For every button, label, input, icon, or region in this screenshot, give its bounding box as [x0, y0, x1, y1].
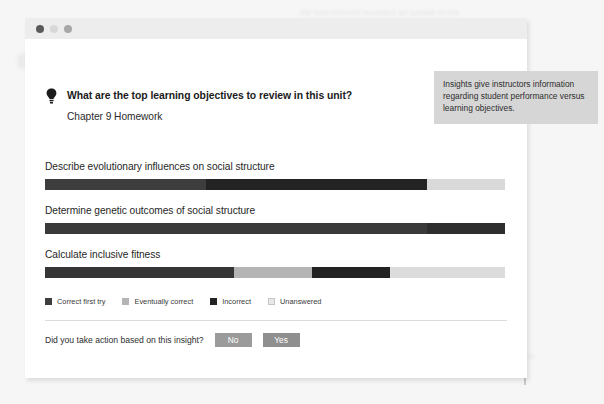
- chart-legend: Correct first try Eventually correct Inc…: [45, 297, 321, 306]
- legend-swatch-icon: [268, 298, 275, 305]
- maximize-dot-icon[interactable]: [64, 25, 72, 33]
- legend-item-correct-first-try[interactable]: Correct first try: [45, 297, 105, 306]
- objective-label: Describe evolutionary influences on soci…: [45, 161, 505, 172]
- objective-row: Determine genetic outcomes of social str…: [45, 205, 505, 234]
- close-dot-icon[interactable]: [36, 25, 44, 33]
- bar-segment-incorrect[interactable]: [427, 223, 505, 234]
- insight-question-title: What are the top learning objectives to …: [67, 89, 352, 102]
- window-title-bar: [25, 18, 527, 39]
- legend-label: Eventually correct: [134, 297, 193, 306]
- insight-feedback-footer: Did you take action based on this insigh…: [45, 333, 300, 347]
- legend-label: Unanswered: [280, 297, 322, 306]
- legend-item-eventually-correct[interactable]: Eventually correct: [122, 297, 193, 306]
- bar-segment-incorrect[interactable]: [206, 179, 427, 190]
- bar-segment-unanswered[interactable]: [427, 179, 505, 190]
- footer-divider: [45, 320, 507, 321]
- minimize-dot-icon[interactable]: [50, 25, 58, 33]
- objective-label: Determine genetic outcomes of social str…: [45, 205, 505, 216]
- stacked-bar-track[interactable]: [45, 179, 505, 190]
- legend-label: Correct first try: [57, 297, 105, 306]
- legend-item-incorrect[interactable]: Incorrect: [210, 297, 251, 306]
- bar-segment-correct-first-try[interactable]: [45, 223, 427, 234]
- feedback-question: Did you take action based on this insigh…: [45, 335, 204, 345]
- stacked-bar-track[interactable]: [45, 223, 505, 234]
- bar-segment-correct-first-try[interactable]: [45, 267, 234, 278]
- bar-segment-unanswered[interactable]: [390, 267, 505, 278]
- feedback-yes-button[interactable]: Yes: [263, 333, 300, 347]
- legend-swatch-icon: [45, 298, 52, 305]
- objective-row: Calculate inclusive fitness: [45, 249, 505, 278]
- legend-swatch-icon: [210, 298, 217, 305]
- feedback-no-button[interactable]: No: [215, 333, 252, 347]
- learning-objectives-chart: Describe evolutionary influences on soci…: [45, 161, 505, 293]
- objective-label: Calculate inclusive fitness: [45, 249, 505, 260]
- background-text-line: the lose internet recorded an update to …: [300, 8, 459, 17]
- insights-callout-tooltip: Insights give instructors information re…: [434, 71, 598, 124]
- lightbulb-icon: [45, 88, 58, 104]
- callout-text: Insights give instructors information re…: [443, 78, 589, 115]
- stacked-bar-track[interactable]: [45, 267, 505, 278]
- legend-swatch-icon: [122, 298, 129, 305]
- legend-label: Incorrect: [222, 297, 251, 306]
- bar-segment-incorrect[interactable]: [312, 267, 390, 278]
- objective-row: Describe evolutionary influences on soci…: [45, 161, 505, 190]
- bar-segment-eventually-correct[interactable]: [234, 267, 312, 278]
- legend-item-unanswered[interactable]: Unanswered: [268, 297, 322, 306]
- bar-segment-correct-first-try[interactable]: [45, 179, 206, 190]
